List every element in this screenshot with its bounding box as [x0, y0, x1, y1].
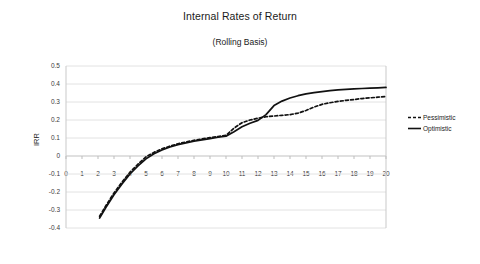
- x-tick-marks: [66, 156, 386, 159]
- solid-line-icon: [408, 125, 421, 132]
- legend-label-optimistic: Optimistic: [423, 125, 452, 132]
- data-series: [100, 87, 386, 218]
- chart-container: Internal Rates of Return (Rolling Basis)…: [0, 0, 480, 264]
- chart-legend: Pessimistic Optimistic: [408, 112, 478, 134]
- legend-item-optimistic[interactable]: Optimistic: [408, 123, 478, 134]
- legend-item-pessimistic[interactable]: Pessimistic: [408, 112, 478, 123]
- dashed-line-icon: [408, 114, 421, 121]
- series-line-optimistic: [100, 87, 386, 218]
- legend-label-pessimistic: Pessimistic: [423, 114, 456, 121]
